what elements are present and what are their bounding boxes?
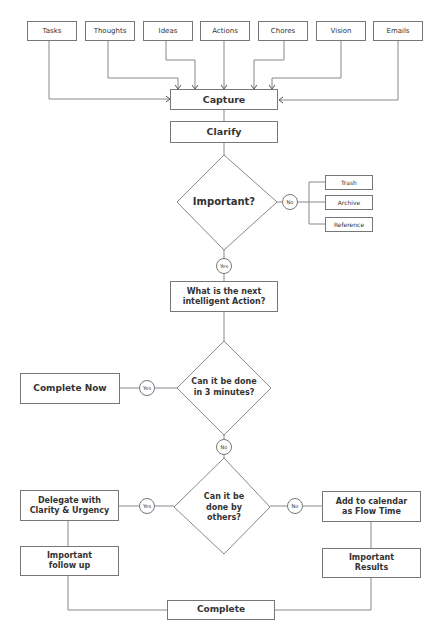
- input-box-emails: Emails: [373, 21, 423, 41]
- calendar-box: Add to calendar as Flow Time: [322, 491, 421, 522]
- three-minutes-no-label: No: [216, 439, 232, 455]
- important-yes-label: Yes: [216, 258, 232, 274]
- next-action-box: What is the next intelligent Action?: [170, 281, 278, 312]
- delegate-box: Delegate with Clarity & Urgency: [20, 490, 119, 521]
- important-results-box: Important Results: [322, 548, 421, 578]
- input-box-tasks: Tasks: [27, 21, 77, 41]
- capture-box: Capture: [170, 89, 278, 110]
- complete-now-box: Complete Now: [20, 373, 120, 404]
- clarify-box: Clarify: [170, 121, 278, 143]
- input-box-ideas: Ideas: [143, 21, 193, 41]
- important-question: Important?: [180, 190, 268, 214]
- trash-box: Trash: [325, 175, 373, 190]
- input-box-actions: Actions: [200, 21, 250, 41]
- others-yes-label: Yes: [139, 498, 155, 514]
- input-box-chores: Chores: [258, 21, 308, 41]
- others-question: Can it be done by others?: [188, 490, 260, 526]
- complete-box: Complete: [167, 600, 275, 620]
- three-minutes-question: Can it be done in 3 minutes?: [186, 372, 262, 404]
- input-box-thoughts: Thoughts: [85, 21, 135, 41]
- important-follow-up-box: Important follow up: [20, 546, 119, 576]
- input-box-vision: Vision: [316, 21, 366, 41]
- others-no-label: No: [287, 498, 303, 514]
- archive-box: Archive: [325, 195, 373, 210]
- three-minutes-yes-label: Yes: [139, 380, 155, 396]
- reference-box: Reference: [325, 217, 373, 232]
- important-no-label: No: [282, 194, 298, 210]
